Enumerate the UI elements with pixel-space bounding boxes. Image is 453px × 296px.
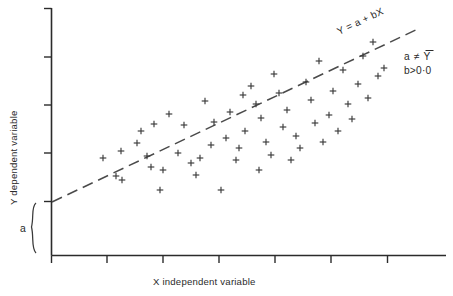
scatter-point xyxy=(256,167,263,174)
scatter-point-group xyxy=(100,39,388,194)
scatter-point xyxy=(193,172,200,179)
scatter-point xyxy=(345,101,352,108)
scatter-point xyxy=(148,164,155,171)
scatter-point xyxy=(288,157,295,164)
scatter-point xyxy=(293,133,300,140)
scatter-point xyxy=(134,140,141,147)
x-axis xyxy=(52,256,447,264)
scatter-point xyxy=(312,120,319,127)
scatter-point xyxy=(263,139,270,146)
scatter-point xyxy=(242,128,249,135)
scatter-point xyxy=(160,167,167,174)
scatter-point xyxy=(303,79,310,86)
plot-canvas: a Y = a + bX a ≠ Y b>0·0 Y dependent var… xyxy=(0,0,453,296)
scatter-plot-figure: a Y = a + bX a ≠ Y b>0·0 Y dependent var… xyxy=(0,0,453,296)
scatter-point xyxy=(197,155,204,162)
scatter-point xyxy=(100,155,107,162)
scatter-point xyxy=(271,71,278,78)
scatter-point xyxy=(113,173,120,180)
scatter-point xyxy=(349,116,356,123)
scatter-point xyxy=(381,65,388,72)
scatter-point xyxy=(340,67,347,74)
scatter-point xyxy=(308,97,315,104)
scatter-point xyxy=(211,119,218,126)
scatter-point xyxy=(316,58,323,65)
scatter-point xyxy=(268,152,275,159)
scatter-point xyxy=(375,73,382,80)
scatter-point xyxy=(166,111,173,118)
y-axis xyxy=(44,8,52,256)
scatter-point xyxy=(236,145,243,152)
scatter-point xyxy=(233,157,240,164)
scatter-point xyxy=(202,98,209,105)
scatter-point xyxy=(355,81,362,88)
condition-annotations: a ≠ Y b>0·0 xyxy=(404,51,434,76)
scatter-point xyxy=(188,160,195,167)
regression-line xyxy=(52,28,420,202)
scatter-point xyxy=(175,150,182,157)
scatter-point xyxy=(365,95,372,102)
condition-line-2: b>0·0 xyxy=(404,65,431,76)
scatter-point xyxy=(320,139,327,146)
scatter-point xyxy=(218,187,225,194)
scatter-point xyxy=(326,112,333,119)
scatter-point xyxy=(181,122,188,129)
condition-line-1: a ≠ Y xyxy=(404,51,431,62)
scatter-point xyxy=(284,107,291,114)
scatter-point xyxy=(208,142,215,149)
scatter-point xyxy=(119,177,126,184)
scatter-point xyxy=(297,145,304,152)
scatter-point xyxy=(138,128,145,135)
intercept-label: a xyxy=(20,223,26,234)
scatter-point xyxy=(248,83,255,90)
x-axis-label: X independent variable xyxy=(153,276,256,287)
scatter-point xyxy=(335,128,342,135)
regression-line-label: Y = a + bX xyxy=(335,5,385,36)
intercept-brace xyxy=(32,203,37,253)
scatter-point xyxy=(280,124,287,131)
y-axis-label: Y dependent variable xyxy=(8,110,19,205)
scatter-point xyxy=(370,39,377,46)
scatter-point xyxy=(258,115,265,122)
scatter-point xyxy=(157,187,164,194)
scatter-point xyxy=(118,148,125,155)
scatter-point xyxy=(227,109,234,116)
scatter-point xyxy=(330,88,337,95)
scatter-point xyxy=(240,92,247,99)
scatter-point xyxy=(151,121,158,128)
scatter-point xyxy=(223,135,230,142)
